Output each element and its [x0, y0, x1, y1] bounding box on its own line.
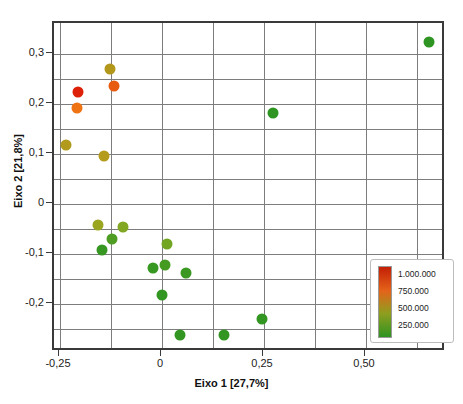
- y-axis-tick: [46, 152, 52, 153]
- y-axis-tick: [46, 102, 52, 103]
- y-axis-title: Eixo 2 [21,8%]: [12, 91, 24, 251]
- legend-label: 250.000: [398, 320, 429, 330]
- y-axis-tick: [46, 52, 52, 53]
- y-axis-tick-label: -0,1: [25, 246, 44, 258]
- x-axis-tick-label: 0: [157, 357, 163, 369]
- data-point: [160, 259, 171, 270]
- data-point: [256, 314, 267, 325]
- data-point: [267, 108, 278, 119]
- data-point: [104, 63, 115, 74]
- scatter-plot-figure: -0,2500,250,500,30,20,10-0,1-0,2 Eixo 1 …: [0, 0, 463, 404]
- x-axis-tick-label: 0,25: [251, 357, 272, 369]
- y-axis-tick-label: 0,3: [29, 46, 44, 58]
- data-point: [92, 220, 103, 231]
- x-axis-tick-label: -0,25: [45, 357, 70, 369]
- x-axis-tick: [160, 350, 161, 356]
- data-point: [424, 37, 435, 48]
- data-point: [99, 151, 110, 162]
- data-point: [107, 233, 118, 244]
- data-point: [148, 263, 159, 274]
- data-point: [73, 86, 84, 97]
- y-axis-tick: [46, 202, 52, 203]
- y-axis-tick-label: -0,2: [25, 296, 44, 308]
- y-axis-tick-label: 0: [38, 196, 44, 208]
- y-axis-tick: [46, 252, 52, 253]
- x-axis-tick: [364, 350, 365, 356]
- data-point: [174, 329, 185, 340]
- data-point: [97, 245, 108, 256]
- legend-label: 750.000: [398, 286, 429, 296]
- x-axis-tick-label: 0,50: [353, 357, 374, 369]
- data-point: [219, 329, 230, 340]
- y-axis-tick-label: 0,1: [29, 146, 44, 158]
- x-axis-tick: [58, 350, 59, 356]
- x-axis-title: Eixo 1 [27,7%]: [0, 377, 463, 389]
- data-point: [61, 139, 72, 150]
- legend-colorbar-gradient: [378, 266, 392, 338]
- data-point: [180, 268, 191, 279]
- y-axis-tick: [46, 302, 52, 303]
- data-point: [72, 102, 83, 113]
- data-point: [108, 80, 119, 91]
- x-axis-tick: [262, 350, 263, 356]
- data-point: [118, 222, 129, 233]
- legend: 1.000.000750.000500.000250.000: [370, 259, 454, 343]
- data-point: [157, 290, 168, 301]
- legend-label: 1.000.000: [398, 269, 436, 279]
- legend-label: 500.000: [398, 303, 429, 313]
- y-axis-tick-label: 0,2: [29, 96, 44, 108]
- data-point: [161, 239, 172, 250]
